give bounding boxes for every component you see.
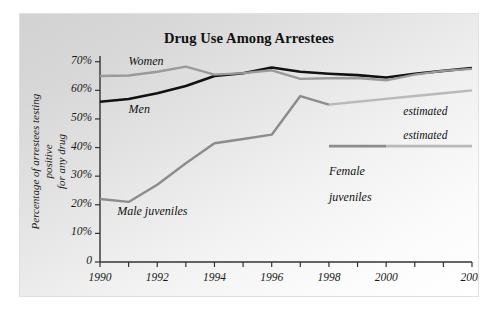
x-tick-label: 1998	[304, 271, 354, 283]
y-tick-label: 70%	[48, 54, 92, 66]
estimated-label-male-juveniles: estimated	[403, 105, 447, 117]
estimated-label-female-juveniles: estimated	[403, 129, 447, 141]
x-tick-label: 1992	[132, 271, 182, 283]
series-label-female-juveniles-line1: Female	[329, 165, 372, 178]
y-tick-label: 30%	[48, 168, 92, 180]
series-label-men: Men	[129, 103, 150, 116]
x-tick-label: 1994	[189, 271, 239, 283]
series-label-female-juveniles-line2: juveniles	[329, 191, 372, 204]
y-tick-label: 10%	[48, 225, 92, 237]
x-tick-label: 1996	[247, 271, 297, 283]
y-tick-label: 40%	[48, 140, 92, 152]
series-label-women: Women	[129, 55, 164, 68]
y-tick-label: 20%	[48, 197, 92, 209]
y-axis-ticks	[95, 62, 100, 262]
chart-panel: Drug Use Among Arrestees Percentage of a…	[20, 14, 478, 296]
y-tick-label: 0	[48, 254, 92, 266]
chart-figure: Drug Use Among Arrestees Percentage of a…	[0, 0, 491, 312]
x-tick-label: 2003	[447, 271, 478, 283]
series-line-male-juveniles-estimated	[329, 90, 472, 104]
series-label-female-juveniles: Female juveniles	[329, 152, 372, 217]
axis-lines	[100, 56, 472, 262]
y-tick-label: 60%	[48, 82, 92, 94]
series-label-male-juveniles: Male juveniles	[117, 205, 187, 218]
y-tick-label: 50%	[48, 111, 92, 123]
x-axis-ticks	[100, 262, 472, 267]
x-tick-label: 1990	[75, 271, 125, 283]
x-tick-label: 2000	[361, 271, 411, 283]
